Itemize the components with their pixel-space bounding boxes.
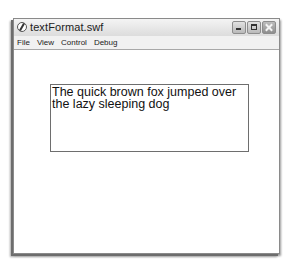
window-title: textFormat.swf — [30, 21, 104, 33]
swf-stage: The quick brown fox jumped over the lazy… — [14, 50, 279, 253]
close-icon[interactable] — [262, 21, 276, 34]
window-controls — [232, 21, 276, 34]
minimize-icon[interactable] — [232, 21, 246, 34]
menu-control[interactable]: Control — [61, 38, 87, 47]
flash-player-window: textFormat.swf File View Control Debug T… — [13, 18, 280, 254]
menu-bar: File View Control Debug — [14, 36, 279, 50]
maximize-icon[interactable] — [247, 21, 261, 34]
menu-view[interactable]: View — [37, 38, 54, 47]
title-bar[interactable]: textFormat.swf — [14, 19, 279, 37]
text-field[interactable]: The quick brown fox jumped over the lazy… — [50, 84, 249, 152]
menu-debug[interactable]: Debug — [94, 38, 118, 47]
menu-file[interactable]: File — [17, 38, 30, 47]
flash-player-icon — [17, 22, 27, 32]
